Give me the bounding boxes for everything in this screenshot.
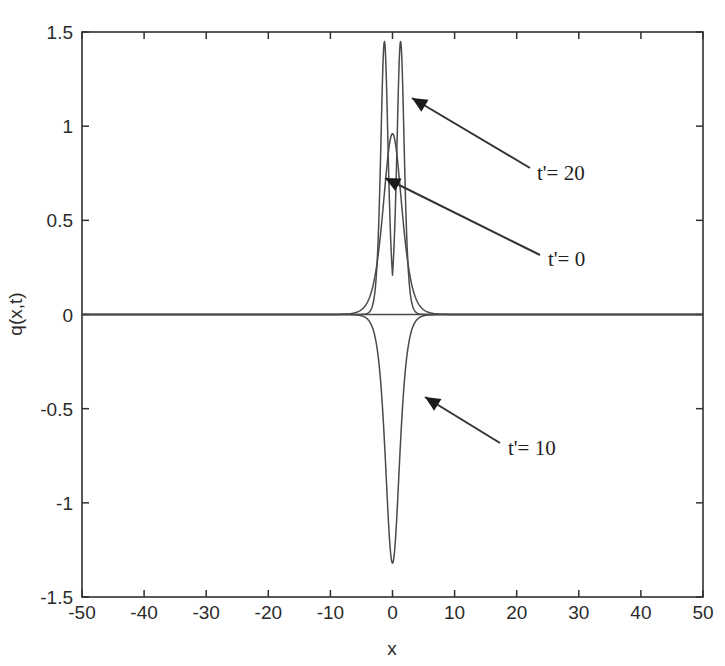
annotation-label-t10: t'= 10 bbox=[508, 436, 556, 460]
x-axis-tick-labels: -50-40-30-20-1001020304050 bbox=[68, 602, 713, 623]
annotation-leader-line bbox=[412, 98, 530, 168]
y-tick-label: -1 bbox=[56, 493, 73, 514]
x-tick-label: 0 bbox=[387, 602, 398, 623]
curve-t20 bbox=[82, 42, 703, 315]
x-tick-label: -40 bbox=[130, 602, 157, 623]
annotation-arrows bbox=[382, 92, 540, 443]
x-tick-label: -10 bbox=[317, 602, 344, 623]
figure-container: -50-40-30-20-1001020304050 1.510.50-0.5-… bbox=[0, 0, 725, 666]
plot-svg: -50-40-30-20-1001020304050 1.510.50-0.5-… bbox=[0, 0, 725, 666]
y-tick-label: 0.5 bbox=[47, 210, 73, 231]
y-tick-label: -1.5 bbox=[40, 587, 73, 608]
annotation-leader-line bbox=[385, 178, 540, 255]
y-axis-tick-labels: 1.510.50-0.5-1-1.5 bbox=[40, 22, 73, 608]
annotation-label-t0: t'= 0 bbox=[548, 247, 585, 271]
y-tick-label: 0 bbox=[62, 305, 73, 326]
curve-t10 bbox=[82, 315, 703, 564]
annotation-arrowhead bbox=[408, 92, 428, 112]
x-tick-label: -30 bbox=[192, 602, 219, 623]
x-tick-label: 50 bbox=[692, 602, 713, 623]
x-tick-label: 20 bbox=[506, 602, 527, 623]
x-tick-label: 10 bbox=[444, 602, 465, 623]
x-tick-label: -20 bbox=[255, 602, 282, 623]
y-tick-label: -0.5 bbox=[40, 399, 73, 420]
y-tick-label: 1.5 bbox=[47, 22, 73, 43]
annotation-label-t20: t'= 20 bbox=[537, 161, 585, 185]
y-tick-label: 1 bbox=[62, 116, 73, 137]
x-tick-label: 30 bbox=[568, 602, 589, 623]
y-axis-title: q(x,t) bbox=[5, 292, 26, 335]
x-tick-label: 40 bbox=[630, 602, 651, 623]
curve-t0 bbox=[82, 134, 703, 315]
annotation-arrowhead bbox=[421, 391, 441, 411]
x-axis-title: x bbox=[387, 638, 397, 659]
